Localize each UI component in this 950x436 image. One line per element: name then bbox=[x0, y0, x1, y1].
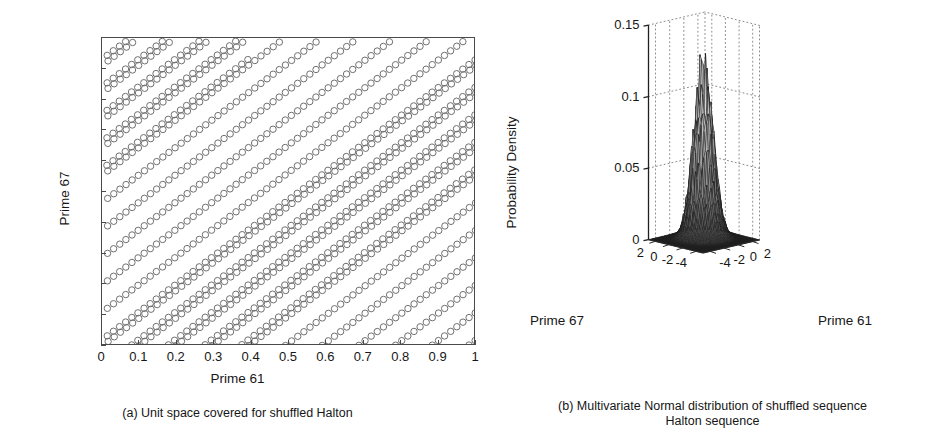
scatter-point bbox=[349, 94, 355, 100]
scatter-point bbox=[215, 167, 221, 173]
scatter-point bbox=[215, 140, 221, 146]
scatter-point bbox=[270, 126, 276, 132]
scatter-point bbox=[429, 61, 435, 67]
x-tick-label: 0.9 bbox=[429, 349, 447, 364]
scatter-point bbox=[356, 62, 362, 68]
scatter-point bbox=[129, 232, 135, 238]
x-tick-label: 0.3 bbox=[204, 349, 222, 364]
scatter-point bbox=[411, 301, 417, 307]
scatter-point bbox=[270, 71, 276, 77]
y-tickmark bbox=[101, 253, 106, 254]
scatter-point bbox=[386, 292, 392, 298]
scatter-point bbox=[423, 66, 429, 72]
scatter-point bbox=[245, 117, 251, 123]
scatter-point bbox=[209, 117, 215, 123]
scatter-point bbox=[276, 121, 282, 127]
scatter-point bbox=[325, 85, 331, 91]
scatter-point bbox=[264, 48, 270, 54]
scatter-point bbox=[344, 296, 350, 302]
scatter-point bbox=[466, 342, 472, 345]
scatter-point bbox=[208, 199, 214, 205]
scatter-point bbox=[282, 172, 288, 178]
x-tickmark bbox=[400, 340, 401, 345]
panel-a-caption: (a) Unit space covered for shuffled Halt… bbox=[0, 406, 475, 421]
scatter-point bbox=[417, 43, 423, 49]
scatter-point bbox=[202, 177, 208, 183]
y-tickmark bbox=[101, 160, 106, 161]
scatter-point bbox=[307, 43, 313, 49]
scatter-point bbox=[441, 333, 447, 339]
scatter-point bbox=[196, 126, 202, 132]
scatter-point bbox=[448, 301, 454, 307]
scatter-point bbox=[374, 75, 380, 81]
scatter-point bbox=[460, 264, 466, 270]
scatter-point bbox=[245, 172, 251, 178]
scatter-point bbox=[227, 213, 233, 219]
scatter-point bbox=[159, 236, 165, 242]
x-tickmark bbox=[363, 340, 364, 345]
scatter-point bbox=[264, 103, 270, 109]
scatter-point bbox=[350, 292, 356, 298]
scatter-point bbox=[123, 291, 129, 297]
scatter-point bbox=[221, 108, 227, 114]
scatter-point bbox=[160, 181, 166, 187]
scatter-point bbox=[294, 80, 300, 86]
figure-root: 00.10.20.30.40.50.60.70.80.91 00.10.20.3… bbox=[0, 0, 950, 436]
scatter-point bbox=[448, 246, 454, 252]
scatter-point bbox=[319, 62, 325, 68]
scatter-point bbox=[325, 112, 331, 118]
scatter-point bbox=[245, 199, 251, 205]
scatter-point bbox=[411, 246, 417, 252]
y-tick-label: 2 bbox=[637, 245, 644, 260]
scatter-point bbox=[110, 246, 116, 252]
scatter-point bbox=[111, 191, 117, 197]
scatter-point bbox=[123, 236, 129, 242]
scatter-point bbox=[111, 218, 117, 224]
scatter-point bbox=[104, 223, 110, 229]
scatter-point bbox=[392, 315, 398, 321]
scatter-point bbox=[331, 306, 337, 312]
scatter-point bbox=[454, 214, 460, 220]
scatter-point bbox=[423, 319, 429, 325]
scatter-point bbox=[417, 296, 423, 302]
scatter-point bbox=[374, 103, 380, 109]
scatter-point bbox=[172, 200, 178, 206]
scatter-point bbox=[172, 255, 178, 261]
scatter-point bbox=[300, 103, 306, 109]
y-tick-label: -4 bbox=[675, 255, 687, 270]
scatter-point bbox=[386, 319, 392, 325]
scatter-point bbox=[448, 273, 454, 279]
scatter-point bbox=[362, 57, 368, 63]
scatter-point bbox=[172, 227, 178, 233]
panel-b-surface: 00.050.10.15-4-202-4-202Prime 67Prime 61… bbox=[475, 0, 950, 436]
scatter-point bbox=[313, 121, 319, 127]
scatter-point bbox=[392, 342, 398, 345]
x-tick-label: 0.5 bbox=[279, 349, 297, 364]
y-tickmark bbox=[101, 129, 106, 130]
scatter-point bbox=[288, 338, 294, 344]
x-tickmark bbox=[724, 248, 730, 250]
scatter-point bbox=[307, 324, 313, 330]
y-tickmark bbox=[101, 99, 106, 100]
scatter-point bbox=[331, 135, 337, 141]
scatter-point bbox=[147, 163, 153, 169]
scatter-point bbox=[123, 209, 129, 215]
scatter-point bbox=[313, 94, 319, 100]
scatter-point bbox=[337, 48, 343, 54]
scatter-point bbox=[245, 89, 251, 95]
scatter-point bbox=[264, 76, 270, 82]
y-tickmark bbox=[677, 248, 683, 250]
scatter-point bbox=[288, 140, 294, 146]
scatter-point bbox=[448, 328, 454, 334]
y-tickmark bbox=[101, 68, 106, 69]
scatter-point bbox=[442, 278, 448, 284]
scatter-point bbox=[380, 324, 386, 330]
scatter-point bbox=[190, 131, 196, 137]
scatter-point bbox=[129, 177, 135, 183]
scatter-point bbox=[398, 57, 404, 63]
scatter-point bbox=[141, 223, 147, 229]
scatter-point bbox=[166, 177, 172, 183]
scatter-point bbox=[374, 328, 380, 334]
scatter-point bbox=[141, 195, 147, 201]
scatter-point bbox=[460, 319, 466, 325]
